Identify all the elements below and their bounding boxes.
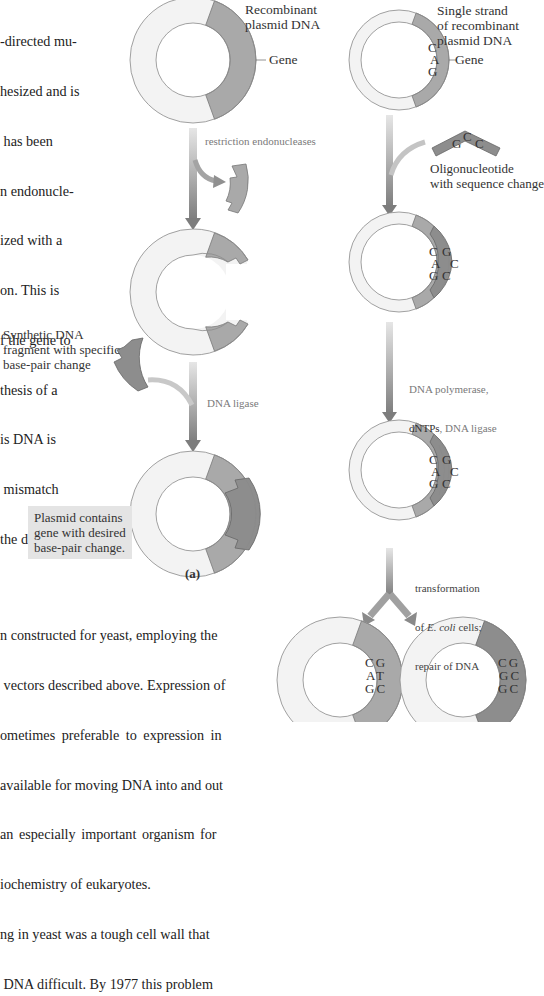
excised-fragment: [226, 164, 248, 213]
bottom-text: n constructed for yeast, employing the v…: [0, 594, 225, 996]
ecoli-text: E. coli: [427, 621, 456, 633]
hybrid-base-r2: C: [450, 256, 459, 271]
ligase-text: , DNA ligase: [440, 422, 497, 434]
bottom-line: ometimes preferable to expression in: [0, 727, 225, 744]
oligo-base-3: C: [475, 136, 484, 151]
polymerase-label: DNA polymerase, dNTPs, DNA ligase: [409, 357, 497, 448]
restriction-endonucleases-label: restriction endonucleases: [205, 135, 316, 148]
oligo-base-2: C: [463, 129, 472, 144]
hybrid-base-l3: G: [429, 268, 438, 283]
arrow-polymerase: [382, 322, 397, 423]
bottom-line: ng in yeast was a tough cell wall that: [0, 926, 225, 943]
arrow-transformation-split: [362, 548, 417, 626]
dntps-text: dNTPs: [409, 422, 440, 434]
arrow-ligase: [148, 362, 201, 452]
polymerase-label-line2: dNTPs, DNA ligase: [409, 422, 497, 435]
bottom-line: an especially important organism for: [0, 826, 225, 843]
ds-base-l3: G: [429, 476, 438, 491]
oligonucleotide: G C C: [432, 129, 500, 156]
hybrid-base-r3: C: [442, 268, 451, 283]
dna-ligase-label: DNA ligase: [207, 397, 259, 410]
arrow-annealing: [382, 115, 425, 216]
transformation-of: of: [415, 621, 427, 633]
single-strand-label: Single strand of recombinant plasmid DNA: [437, 3, 519, 48]
bottom-line: iochemistry of eukaryotes.: [0, 876, 225, 893]
bottom-line: vectors described above. Expression of: [0, 677, 225, 694]
plasmid-b2-hybrid: C A G G C C: [349, 212, 459, 312]
transformation-line2: of E. coli cells;: [415, 621, 482, 634]
plasmid-a2-cut: [130, 229, 260, 355]
gene-label-b: Gene: [455, 52, 483, 67]
gene-label-a: Gene: [269, 52, 297, 67]
bottom-line: available for moving DNA into and out: [0, 777, 225, 794]
bottom-line: DNA difficult. By 1977 this problem: [0, 976, 225, 993]
transformation-line3: repair of DNA: [415, 660, 482, 673]
oligo-base-1: G: [452, 136, 461, 151]
plasmid-a3-final: [130, 451, 260, 577]
ds-base-r3: C: [442, 476, 451, 491]
transformation-line1: transformation: [415, 582, 482, 595]
transformation-label: transformation of E. coli cells; repair …: [415, 556, 482, 686]
gene-base-3: G: [428, 64, 437, 79]
ds-base-r2: C: [450, 464, 459, 479]
oligonucleotide-label: Oligonucleotide with sequence change: [430, 161, 544, 191]
cells-text: cells;: [456, 621, 482, 633]
polymerase-label-line1: DNA polymerase,: [409, 383, 497, 396]
bottom-line: n constructed for yeast, employing the: [0, 627, 225, 644]
recombinant-plasmid-label: Recombinant plasmid DNA: [245, 2, 320, 32]
result-box: Plasmid contains gene with desired base-…: [28, 506, 132, 559]
figure-label-a: (a): [185, 566, 200, 582]
synthetic-fragment-label: Synthetic DNA fragment with specific bas…: [3, 327, 120, 372]
plasmid-b4-mutant: CG AT GC: [277, 617, 403, 722]
